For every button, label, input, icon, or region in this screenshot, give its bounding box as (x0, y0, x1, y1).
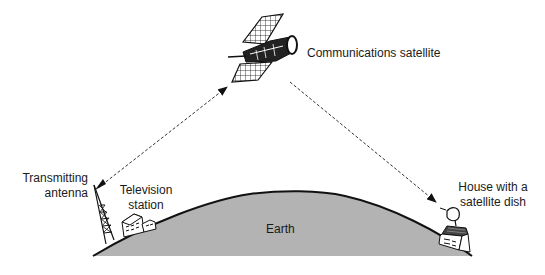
station-label-line1: Television (118, 183, 174, 198)
antenna-label: Transmitting antenna (5, 171, 88, 201)
house-label-line1: House with a (448, 180, 538, 195)
downlink-arrow (290, 82, 436, 202)
transmitting-antenna-icon (94, 185, 114, 244)
station-label-line2: station (118, 198, 174, 213)
house-label-line2: satellite dish (448, 195, 538, 210)
satellite-icon (228, 14, 297, 82)
earth-label: Earth (266, 222, 295, 237)
house-with-dish-icon (439, 208, 470, 252)
satellite-label: Communications satellite (307, 46, 440, 61)
antenna-label-line1: Transmitting (5, 171, 88, 186)
station-label: Television station (118, 183, 174, 213)
uplink-arrow (95, 87, 227, 190)
antenna-label-line2: antenna (5, 186, 88, 201)
house-label: House with a satellite dish (448, 180, 538, 210)
